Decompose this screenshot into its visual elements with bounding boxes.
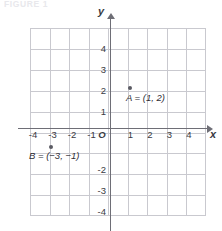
y-axis-line — [110, 18, 111, 231]
x-tick-label-2: 2 — [140, 130, 160, 140]
x-tick-label--2: -2 — [62, 130, 82, 140]
grid-line-horizontal — [30, 215, 206, 216]
grid-line-vertical — [186, 28, 187, 216]
x-tick-label--3: -3 — [43, 130, 63, 140]
y-tick-label-1: 1 — [92, 107, 106, 117]
y-tick-label-3: 3 — [92, 65, 106, 75]
point-b-dot — [49, 145, 53, 149]
grid-line-vertical — [128, 28, 129, 216]
x-tick-label-1: 1 — [121, 130, 141, 140]
grid-line-horizontal — [30, 195, 206, 196]
grid-line-vertical — [69, 28, 70, 216]
grid-line-vertical — [50, 28, 51, 216]
grid-line-vertical — [205, 28, 206, 216]
grid-line-horizontal — [30, 49, 206, 50]
y-tick-label--3: -3 — [92, 186, 106, 196]
y-tick-label-4: 4 — [92, 44, 106, 54]
grid — [30, 28, 206, 216]
x-tick-label--4: -4 — [23, 130, 43, 140]
grid-line-vertical — [147, 28, 148, 216]
grid-line-horizontal — [30, 174, 206, 175]
point-a-dot — [128, 86, 132, 90]
x-tick-label--1: -1 — [82, 130, 102, 140]
x-axis-line — [18, 128, 209, 129]
y-tick-label--4: -4 — [92, 207, 106, 217]
grid-line-vertical — [30, 28, 31, 216]
grid-line-horizontal — [30, 28, 206, 29]
grid-line-horizontal — [30, 91, 206, 92]
x-tick-label-3: 3 — [160, 130, 180, 140]
grid-line-vertical — [167, 28, 168, 216]
x-axis-label: x — [210, 129, 216, 140]
y-axis-arrow-icon — [107, 13, 115, 19]
grid-line-horizontal — [30, 112, 206, 113]
grid-line-horizontal — [30, 70, 206, 71]
figure-heading: FIGURE 1 — [4, 0, 48, 8]
y-axis-label: y — [98, 6, 104, 17]
point-a-label: A = (1, 2) — [126, 92, 165, 103]
coordinate-plane-figure: FIGURE 1 y x O -4 -3 -2 -1 1 2 3 4 — [0, 0, 222, 231]
grid-line-vertical — [89, 28, 90, 216]
point-b-label: B = (−3, −1) — [29, 150, 79, 161]
x-tick-label-4: 4 — [179, 130, 199, 140]
y-tick-label--2: -2 — [92, 165, 106, 175]
y-tick-label-2: 2 — [92, 86, 106, 96]
grid-line-vertical — [108, 28, 109, 216]
